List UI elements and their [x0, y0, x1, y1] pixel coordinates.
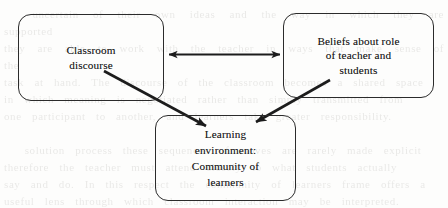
node-learning-environment[interactable]: Learning environment: Community of learn…	[155, 115, 296, 201]
node-classroom-discourse-label: Classroom discourse	[66, 43, 115, 72]
node-beliefs-about-role[interactable]: Beliefs about role of teacher and studen…	[283, 13, 434, 98]
node-classroom-discourse[interactable]: Classroom discourse	[18, 14, 164, 101]
node-beliefs-about-role-label: Beliefs about role of teacher and studen…	[317, 34, 399, 78]
concept-diagram: uncertain of their own ideas and the way…	[0, 0, 448, 208]
node-learning-environment-label: Learning environment: Community of learn…	[192, 126, 259, 190]
